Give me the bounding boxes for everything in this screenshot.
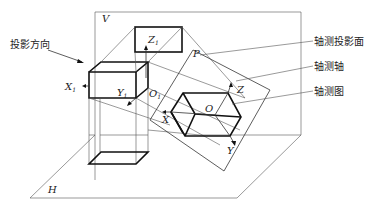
label-h: H bbox=[47, 184, 57, 195]
callout-axonometric-plane: 轴测投影面 bbox=[314, 35, 364, 47]
label-o1: O1 bbox=[149, 88, 161, 100]
box-side-edge-2 bbox=[136, 88, 148, 98]
callout-projection-direction: 投影方向 bbox=[10, 38, 50, 50]
callout-axonometric-drawing: 轴测图 bbox=[314, 85, 344, 97]
label-v: V bbox=[102, 13, 111, 24]
projection-direction-arrow bbox=[48, 50, 82, 62]
callout-axonometric-axis: 轴测轴 bbox=[314, 60, 344, 72]
h-plane bbox=[30, 135, 301, 198]
label-x: X bbox=[161, 114, 170, 125]
axonometric-diagram: V H P Z1 X1 Y1 O1 Z X Y O 投影方向 轴测投影面 轴测轴… bbox=[0, 0, 381, 213]
label-o: O bbox=[205, 103, 213, 114]
box-front-face bbox=[89, 72, 136, 98]
box-top-face bbox=[89, 62, 148, 72]
label-x1: X1 bbox=[64, 81, 76, 93]
label-z: Z bbox=[236, 84, 245, 95]
label-p: P bbox=[192, 48, 200, 59]
h-projection-box bbox=[89, 152, 148, 164]
label-z1: Z1 bbox=[147, 34, 159, 46]
label-y1: Y1 bbox=[117, 87, 127, 99]
